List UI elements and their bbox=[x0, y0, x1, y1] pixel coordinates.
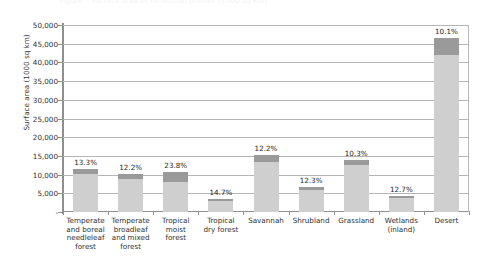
x-tick-mark bbox=[424, 211, 425, 215]
y-tick-label: 5,000 bbox=[12, 189, 58, 198]
figure-caption-strip: Figure – Surface area of terrestrial bio… bbox=[0, 0, 478, 10]
bar[interactable] bbox=[389, 196, 414, 212]
y-tick-label: 35,000 bbox=[12, 77, 58, 86]
x-tick-mark bbox=[108, 211, 109, 215]
y-tick-label: - bbox=[12, 208, 58, 217]
bar-segment-lower bbox=[344, 160, 369, 212]
bar-series: 13.3%12.2%23.8%14.7%12.2%12.3%10.3%12.7%… bbox=[63, 25, 469, 212]
bar-segment-upper bbox=[254, 155, 279, 162]
x-tick-mark bbox=[334, 211, 335, 215]
y-tick-label: 50,000 bbox=[12, 21, 58, 30]
bar-data-label: 12.7% bbox=[369, 185, 433, 194]
x-category-label: Wetlands (inland) bbox=[381, 217, 422, 234]
bar-segment-lower bbox=[389, 196, 414, 212]
x-tick-mark bbox=[469, 211, 470, 215]
bar-segment-upper bbox=[299, 187, 324, 190]
bar[interactable] bbox=[434, 38, 459, 212]
figure-caption-text: Figure – Surface area of terrestrial bio… bbox=[60, 0, 267, 5]
bar-segment-upper bbox=[389, 196, 414, 198]
bar-segment-lower bbox=[254, 155, 279, 212]
bar-data-label: 10.3% bbox=[324, 149, 388, 158]
chart-container: Figure – Surface area of terrestrial bio… bbox=[0, 0, 478, 265]
bar-data-label: 12.3% bbox=[279, 176, 343, 185]
bar-segment-upper bbox=[163, 172, 188, 182]
plot-area: 13.3%12.2%23.8%14.7%12.2%12.3%10.3%12.7%… bbox=[63, 25, 469, 212]
bar[interactable] bbox=[254, 155, 279, 212]
bar-segment-upper bbox=[208, 199, 233, 201]
bar[interactable] bbox=[299, 187, 324, 212]
x-category-label: Temperate broadleaf and mixed forest bbox=[110, 217, 151, 251]
x-axis-category-labels: Temperate and boreal needleleaf forestTe… bbox=[63, 217, 469, 263]
x-category-label: Savannah bbox=[245, 217, 286, 226]
x-tick-mark bbox=[153, 211, 154, 215]
x-category-label: Tropical dry forest bbox=[200, 217, 241, 234]
y-axis-tick-labels: 50,00045,00040,00035,00030,00025,00020,0… bbox=[0, 0, 58, 265]
bar-segment-lower bbox=[434, 38, 459, 212]
x-category-label: Temperate and boreal needleleaf forest bbox=[65, 217, 106, 251]
bar[interactable] bbox=[163, 172, 188, 212]
bar[interactable] bbox=[118, 174, 143, 212]
y-tick-label: 30,000 bbox=[12, 95, 58, 104]
x-category-label: Grassland bbox=[336, 217, 377, 226]
bar-segment-upper bbox=[73, 169, 98, 175]
bar-data-label: 12.2% bbox=[234, 144, 298, 153]
bar-segment-lower bbox=[73, 169, 98, 212]
bar-segment-upper bbox=[434, 38, 459, 55]
x-category-label: Tropical moist forest bbox=[155, 217, 196, 243]
x-tick-mark bbox=[379, 211, 380, 215]
bar-data-label: 10.1% bbox=[414, 27, 478, 36]
bar-segment-lower bbox=[299, 187, 324, 212]
bar-segment-lower bbox=[118, 174, 143, 212]
bar-segment-lower bbox=[208, 199, 233, 212]
y-tick-label: 45,000 bbox=[12, 39, 58, 48]
bar-segment-upper bbox=[118, 174, 143, 179]
x-category-label: Desert bbox=[426, 217, 467, 226]
x-category-label: Shrubland bbox=[291, 217, 332, 226]
x-tick-mark bbox=[243, 211, 244, 215]
x-tick-mark bbox=[198, 211, 199, 215]
x-tick-mark bbox=[289, 211, 290, 215]
bar[interactable] bbox=[73, 169, 98, 212]
bar-data-label: 23.8% bbox=[144, 161, 208, 170]
x-tick-mark bbox=[63, 211, 64, 215]
y-tick-label: 20,000 bbox=[12, 133, 58, 142]
y-tick-label: 15,000 bbox=[12, 151, 58, 160]
y-tick-label: 40,000 bbox=[12, 58, 58, 67]
y-tick-label: 25,000 bbox=[12, 114, 58, 123]
bar[interactable] bbox=[344, 160, 369, 212]
y-tick-label: 10,000 bbox=[12, 170, 58, 179]
bar-data-label: 14.7% bbox=[189, 188, 253, 197]
bar[interactable] bbox=[208, 199, 233, 212]
bar-segment-upper bbox=[344, 160, 369, 165]
